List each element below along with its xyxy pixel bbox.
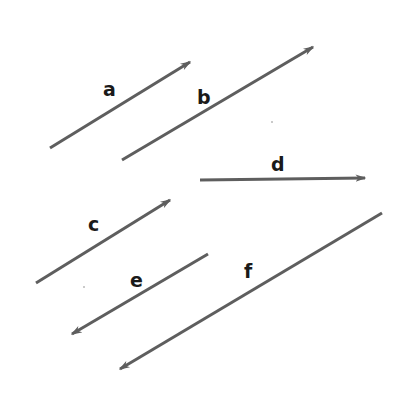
- vector-label-e: e: [130, 271, 143, 290]
- scan-speck: [83, 286, 85, 288]
- vector-arrow-f: [120, 213, 382, 369]
- vector-label-b: b: [197, 88, 211, 107]
- vector-arrow-e: [72, 254, 208, 334]
- vector-label-d: d: [271, 155, 285, 174]
- vector-canvas: [0, 0, 404, 402]
- vector-arrow-a: [50, 62, 190, 148]
- vector-label-c: c: [88, 215, 99, 234]
- scan-speck: [271, 121, 273, 123]
- vector-arrow-b: [122, 47, 313, 160]
- vector-arrow-d: [200, 178, 365, 180]
- vector-diagram: abcdef: [0, 0, 404, 402]
- vector-arrow-c: [36, 200, 170, 283]
- vector-label-a: a: [103, 80, 116, 99]
- vector-label-f: f: [244, 262, 252, 281]
